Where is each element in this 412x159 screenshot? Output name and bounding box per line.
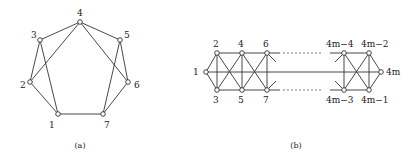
graph-b-edges [206,53,381,90]
graph-a-node-3 [38,38,43,43]
graph-a-node-label: 3 [31,30,37,40]
graph-b-node-label: 6 [263,39,269,49]
graph-a-node-label: 4 [77,8,83,18]
figure-root: 1234567 12345674m−44m−24m−34m−14m (a) (b… [0,0,412,159]
graph-a-node-label: 5 [124,30,130,40]
graph-a-node-2 [28,80,33,85]
graph-b-node-5 [240,88,245,93]
graph-b-node-label: 4m−3 [326,95,354,105]
graph-a-node-7 [101,112,106,117]
graph-b-node-label: 4m [386,67,401,77]
graph-b-node-4m-4 [342,51,347,56]
graph-a-edges [30,22,128,114]
graph-b-node-label: 4 [238,39,244,49]
graph-b-node-4 [240,51,245,56]
graph-a-edge [80,22,128,82]
graph-a-node-6 [126,80,131,85]
graph-a-edge [40,22,80,40]
graph-b-node-2 [215,51,220,56]
graph-a-node-4 [78,20,83,25]
graph-a-nodes: 1234567 [20,8,140,130]
graph-b-node-4m-2 [367,51,372,56]
graph-b-node-7 [265,88,270,93]
graph-b-node-label: 4m−2 [361,39,389,49]
graph-b-node-4m-3 [342,88,347,93]
graph-b-node-label: 2 [213,39,219,49]
graph-a-edge [80,22,120,40]
graph-b-node-3 [215,88,220,93]
graph-b-node-label: 1 [193,67,199,77]
graph-b-node-1 [204,70,209,75]
graph-b-node-label: 4m−1 [361,95,389,105]
graph-a-node-5 [118,38,123,43]
graph-a-node-label: 2 [20,80,26,90]
graph-b-node-4m-1 [367,88,372,93]
graph-b-node-label: 7 [263,95,269,105]
graph-a-node-label: 7 [104,120,110,130]
graph-a-node-label: 6 [134,80,140,90]
caption-b: (b) [290,141,301,150]
graph-a-edge [120,40,128,82]
graph-figure: 1234567 12345674m−44m−24m−34m−14m (a) (b… [0,0,412,159]
graph-b-node-6 [265,51,270,56]
graph-b-node-label: 4m−4 [326,39,354,49]
graph-b-edge [369,53,381,72]
graph-a-node-1 [56,112,61,117]
graph-b-edge [206,53,217,72]
graph-b-node-label: 3 [213,95,219,105]
graph-b-node-label: 5 [238,95,244,105]
graph-b-edge [369,72,381,90]
graph-b-edge [206,72,217,90]
caption-a: (a) [74,141,85,150]
graph-a-node-label: 1 [49,120,55,130]
graph-b-node-4m [379,70,384,75]
